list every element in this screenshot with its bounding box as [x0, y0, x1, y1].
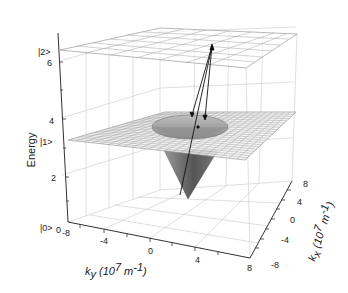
kx-tick-8: 8 — [303, 179, 308, 189]
corner-zero-label: 0 — [56, 225, 61, 235]
kx-axis-title: kx(107 m-1) — [302, 199, 339, 264]
state-labels: |2> |1> |0> 0 — [38, 47, 61, 235]
upper-plane — [60, 28, 297, 68]
ky-tick-neg8: -8 — [62, 228, 70, 238]
ky-tick-4: 4 — [195, 255, 200, 265]
kx-tick-labels: 8 4 0 -4 -8 — [271, 179, 308, 270]
cone-surface — [164, 150, 218, 199]
kx-tick-neg8: -8 — [271, 260, 279, 270]
state-label-1: |1> — [40, 137, 53, 147]
kx-axis — [250, 181, 292, 258]
ky-tick-8: 8 — [247, 263, 252, 273]
ky-axis-title: ky(107 m-1) — [85, 261, 147, 280]
z-tick-6: 6 — [47, 58, 52, 68]
ky-axis — [68, 222, 250, 258]
z-tick-2: 2 — [51, 173, 56, 183]
ky-tick-labels: -8 -4 0 4 8 — [62, 228, 252, 273]
z-tick-4: 4 — [49, 116, 54, 126]
kx-tick-neg4: -4 — [281, 235, 289, 245]
energy-surface-plot: 6 4 2 |2> |1> |0> 0 Energy -8 -4 0 4 8 k… — [0, 0, 348, 293]
kx-tick-4: 4 — [297, 197, 302, 207]
energy-axis-title: Energy — [25, 132, 37, 167]
energy-axis — [58, 33, 68, 222]
ky-tick-neg4: -4 — [100, 236, 108, 246]
middle-plane — [68, 112, 296, 160]
state-label-0: |0> — [40, 223, 53, 233]
kx-tick-0: 0 — [290, 215, 295, 225]
state-label-2: |2> — [38, 47, 51, 57]
ky-tick-0: 0 — [148, 246, 153, 256]
energy-tick-labels: 6 4 2 — [47, 58, 56, 183]
